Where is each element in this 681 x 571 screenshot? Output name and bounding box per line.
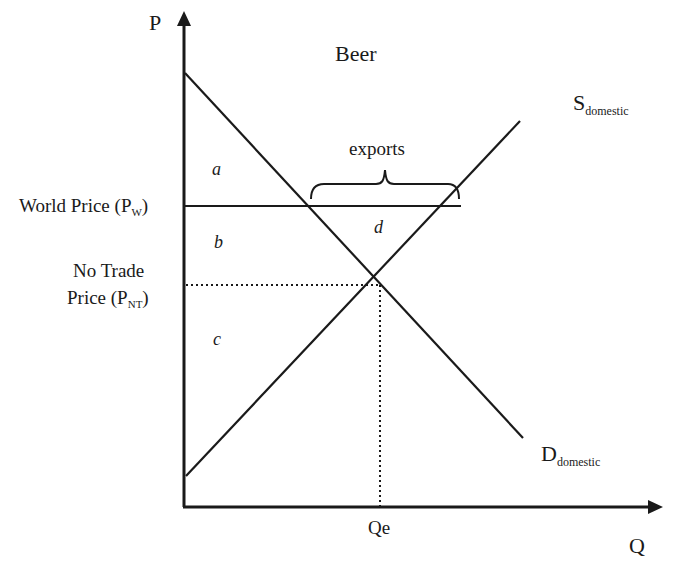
region-b-label: b <box>214 233 223 251</box>
diagram-graphics <box>0 0 681 571</box>
no-trade-label-line1: No Trade <box>73 261 144 280</box>
region-c-label: c <box>213 330 221 348</box>
exports-label: exports <box>349 139 405 158</box>
y-axis-arrow-icon <box>177 11 191 26</box>
x-axis-label: Q <box>629 535 645 557</box>
chart-title: Beer <box>335 43 377 65</box>
world-price-label: World Price (PW) <box>19 196 148 218</box>
supply-curve <box>186 121 520 476</box>
qe-label: Qe <box>368 518 390 537</box>
region-a-label: a <box>212 160 221 178</box>
demand-curve-label: Ddomestic <box>541 443 600 468</box>
x-axis-arrow-icon <box>648 500 663 514</box>
y-axis-label: P <box>149 12 161 34</box>
demand-curve <box>185 73 523 438</box>
exports-brace-icon <box>311 170 459 199</box>
no-trade-price-label: Price (PNT) <box>67 288 149 310</box>
supply-demand-diagram: P Beer Q World Price (PW) No Trade Price… <box>0 0 681 571</box>
supply-curve-label: Sdomestic <box>573 92 629 117</box>
region-d-label: d <box>374 218 383 236</box>
